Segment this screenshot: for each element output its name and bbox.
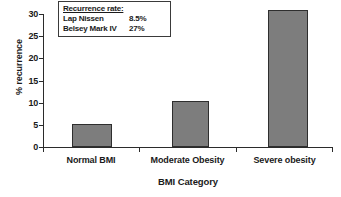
annotation-row: Belsey Mark IV 27% [63,24,170,34]
y-axis-tick-labels: 30 25 20 15 10 5 0 [16,10,38,151]
x-tick-mark-2 [236,147,237,152]
y-tick-label-25: 25 [16,32,38,41]
annotation-value-lap-nissen: 8.5% [129,14,146,24]
recurrence-rate-annotation: Recurrence rate: Lap Nissen 8.5% Belsey … [58,1,171,37]
x-tick-label-normal-bmi: Normal BMI [43,155,139,165]
y-tick-label-5: 5 [16,121,38,130]
annotation-value-belsey-mark-iv: 27% [129,24,144,34]
y-tick-label-30: 30 [16,10,38,19]
x-tick-label-moderate-obesity: Moderate Obesity [139,155,236,165]
annotation-name-belsey-mark-iv: Belsey Mark IV [63,24,129,34]
annotation-row: Lap Nissen 8.5% [63,14,170,24]
annotation-name-lap-nissen: Lap Nissen [63,14,129,24]
bar-normal-bmi [72,124,112,147]
x-axis-title: BMI Category [43,176,333,187]
x-tick-mark-right [332,147,333,152]
x-tick-mark-1 [139,147,140,152]
bar-chart-figure: % recurrence 30 25 20 15 10 5 0 Normal B… [0,0,341,197]
annotation-title: Recurrence rate: [63,4,170,14]
x-tick-label-severe-obesity: Severe obesity [236,155,333,165]
x-axis-line [43,147,333,148]
y-tick-label-15: 15 [16,77,38,86]
y-tick-label-10: 10 [16,99,38,108]
x-tick-mark-left [43,147,44,152]
y-tick-label-0: 0 [16,143,38,152]
y-tick-label-20: 20 [16,54,38,63]
bar-moderate-obesity [172,101,209,147]
bar-severe-obesity [268,10,308,147]
